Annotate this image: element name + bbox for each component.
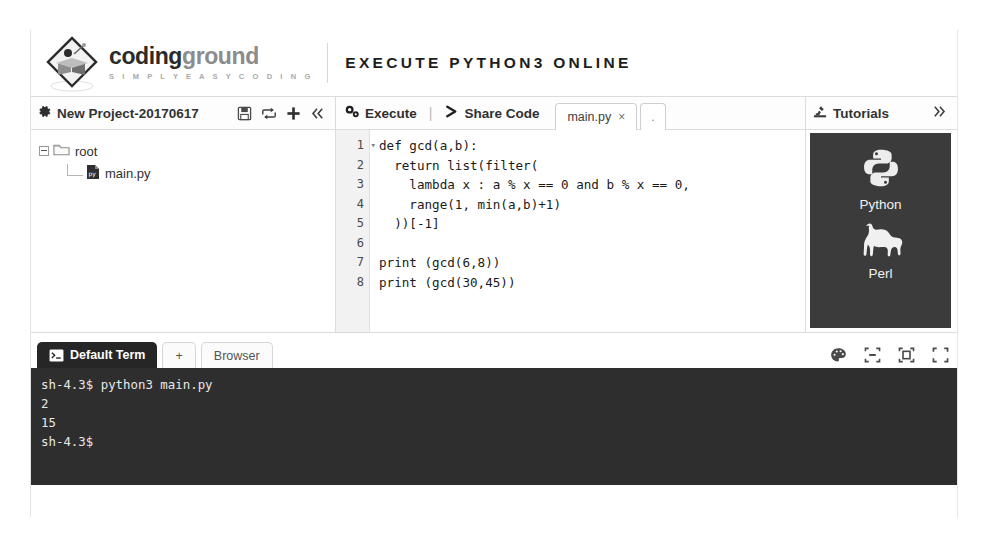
python-logo-icon: [858, 145, 904, 195]
color-palette-icon[interactable]: [830, 347, 847, 363]
terminal-line: sh-4.3$ python3 main.py: [41, 375, 947, 394]
microscope-icon: [812, 104, 828, 122]
terminal-line: 15: [41, 413, 947, 432]
brand-tagline: S I M P L Y E A S Y C O D I N G: [109, 72, 313, 81]
expand-icon[interactable]: [932, 104, 951, 122]
terminal-line: sh-4.3$: [41, 432, 947, 451]
main-content-row: New Project-20170617: [31, 96, 957, 332]
tree-label-root: root: [75, 144, 97, 159]
terminal-tab-browser[interactable]: Browser: [201, 342, 273, 368]
brand-part-ground: ground: [182, 43, 259, 69]
toolbar-separator: |: [429, 105, 433, 121]
gear-icon[interactable]: [37, 104, 52, 122]
folder-icon: [53, 143, 70, 160]
tutorial-item-python[interactable]: Python: [858, 145, 904, 212]
fullscreen-icon[interactable]: [932, 347, 949, 363]
line-number: 7: [336, 253, 364, 273]
console-icon: [49, 349, 64, 362]
tab-main-py-label: main.py: [567, 110, 611, 124]
code-line: def gcd(a,b):: [379, 136, 805, 156]
project-panel: New Project-20170617: [31, 96, 336, 332]
tree-label-main-py: main.py: [105, 166, 151, 181]
terminal-controls: [830, 347, 949, 368]
brand-text: codingground S I M P L Y E A S Y C O D I…: [109, 45, 313, 81]
project-toolbar-icons: [237, 106, 329, 121]
share-code-button[interactable]: Share Code: [444, 104, 539, 122]
page-title: EXECUTE PYTHON3 ONLINE: [345, 54, 631, 72]
restore-window-icon[interactable]: [864, 347, 881, 363]
tab-placeholder[interactable]: .: [640, 103, 665, 130]
terminal-tab-bar: Default Term + Browser: [31, 332, 957, 368]
gear-icon: [344, 104, 360, 122]
line-number: 3: [336, 175, 364, 195]
project-name: New Project-20170617: [57, 106, 199, 121]
line-number: 6: [336, 234, 364, 254]
python-file-icon: py: [86, 164, 100, 183]
code-line: range(1, min(a,b)+1): [379, 195, 805, 215]
brand-title: codingground: [109, 45, 313, 68]
chevron-right-icon: [444, 104, 459, 122]
app-header: codingground S I M P L Y E A S Y C O D I…: [31, 30, 957, 96]
tab-placeholder-label: .: [651, 110, 654, 124]
codingground-app-window: codingground S I M P L Y E A S Y C O D I…: [30, 30, 958, 517]
project-toolbar: New Project-20170617: [31, 96, 335, 130]
tutorials-panel: Tutorials Python: [806, 96, 957, 332]
line-number: 8: [336, 273, 364, 293]
share-project-icon[interactable]: [261, 106, 277, 121]
close-icon[interactable]: ×: [618, 110, 625, 124]
share-code-label: Share Code: [464, 106, 539, 121]
tutorials-title: Tutorials: [833, 106, 889, 121]
code-editor[interactable]: ▾1 2 3 4 5 6 7 8 def gcd(a,b): return li…: [336, 130, 805, 332]
tutorials-toolbar: Tutorials: [806, 96, 957, 130]
execute-button[interactable]: Execute: [344, 104, 417, 122]
line-number: 2: [336, 156, 364, 176]
tree-node-root[interactable]: root: [39, 140, 327, 162]
line-number-gutter: ▾1 2 3 4 5 6 7 8: [336, 130, 370, 332]
line-number: 4: [336, 195, 364, 215]
editor-toolbar: Execute | Share Code main.py × .: [336, 96, 805, 130]
file-tree: root py main.py: [31, 130, 335, 194]
brand-logo[interactable]: codingground S I M P L Y E A S Y C O D I…: [41, 32, 313, 94]
fold-toggle-icon[interactable]: ▾: [371, 136, 376, 156]
codingground-diamond-book-logo: [41, 32, 103, 94]
code-text[interactable]: def gcd(a,b): return list(filter( lambda…: [370, 130, 805, 332]
camel-icon: [855, 218, 907, 264]
code-line: print (gcd(30,45)): [379, 273, 805, 293]
add-terminal-tab-button[interactable]: +: [162, 342, 195, 368]
execute-label: Execute: [365, 106, 417, 121]
editor-tabs: main.py × .: [555, 96, 668, 130]
tree-node-main-py[interactable]: py main.py: [67, 162, 327, 184]
terminal-output[interactable]: sh-4.3$ python3 main.py215sh-4.3$: [31, 368, 957, 485]
tutorial-item-perl[interactable]: Perl: [855, 218, 907, 281]
collapse-expander-icon[interactable]: [39, 146, 49, 156]
line-number: 5: [336, 214, 364, 234]
brand-part-coding: coding: [109, 43, 182, 69]
add-tab-icon: +: [175, 349, 182, 363]
tab-main-py[interactable]: main.py ×: [555, 103, 637, 130]
tree-elbow: [67, 164, 83, 176]
maximize-window-icon[interactable]: [898, 347, 915, 363]
code-line: lambda x : a % x == 0 and b % x == 0,: [379, 175, 805, 195]
terminal-tab-label: Default Term: [70, 348, 145, 362]
code-line: ))[-1]: [379, 214, 805, 234]
tutorial-label-perl: Perl: [868, 266, 892, 281]
browser-tab-label: Browser: [214, 349, 260, 363]
add-file-icon[interactable]: [286, 106, 301, 121]
tutorial-label-python: Python: [859, 197, 901, 212]
header-divider: [327, 43, 328, 83]
code-line: [379, 234, 805, 254]
collapse-icon[interactable]: [310, 106, 325, 121]
svg-text:py: py: [89, 170, 97, 178]
code-line: return list(filter(: [379, 156, 805, 176]
terminal-tab-default-term[interactable]: Default Term: [37, 342, 157, 368]
line-number: ▾1: [336, 136, 364, 156]
code-line: print (gcd(6,8)): [379, 253, 805, 273]
terminal-line: 2: [41, 394, 947, 413]
tutorials-list: Python Perl: [810, 133, 951, 328]
save-icon[interactable]: [237, 106, 252, 121]
editor-panel: Execute | Share Code main.py × .: [336, 96, 806, 332]
